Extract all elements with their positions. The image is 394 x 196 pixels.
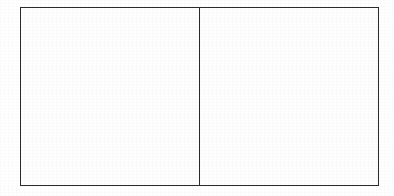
- panel-right: [200, 8, 378, 185]
- panel-right-content: [200, 8, 378, 185]
- panel-left-content: [21, 8, 199, 185]
- drawing-canvas: [0, 0, 394, 196]
- panel-left: [21, 8, 200, 185]
- outer-rectangle: [20, 7, 379, 186]
